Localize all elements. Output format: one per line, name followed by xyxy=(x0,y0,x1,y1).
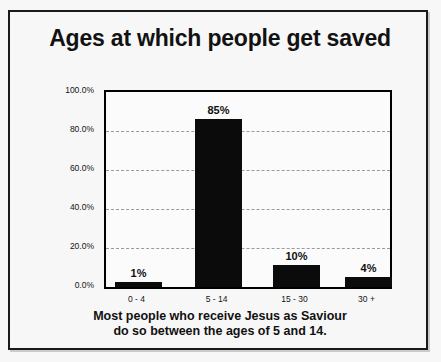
y-axis-tick-label-0: 0.0% xyxy=(34,280,94,290)
gridline-60 xyxy=(106,170,390,171)
chart-screenshot: Ages at which people get saved 100.0% 80… xyxy=(0,0,441,362)
y-axis-tick-label-20: 20.0% xyxy=(34,241,94,251)
y-axis-tick-label-60: 60.0% xyxy=(34,163,94,173)
x-axis-tick-label-5-14: 5 - 14 xyxy=(193,294,240,305)
chart-card-frame: Ages at which people get saved 100.0% 80… xyxy=(8,10,428,350)
plot-area: 1% 85% 10% 4% xyxy=(104,90,392,289)
x-axis-tick-label-15-30: 15 - 30 xyxy=(271,294,318,305)
caption-line-2: do so between the ages of 5 and 14. xyxy=(10,324,430,339)
y-axis-tick-label-100: 100.0% xyxy=(34,85,94,95)
chart-caption: Most people who receive Jesus as Saviour… xyxy=(10,309,430,339)
y-axis-tick-label-80: 80.0% xyxy=(34,124,94,134)
bar-30plus[interactable] xyxy=(345,277,392,287)
bar-label-5-14: 85% xyxy=(195,104,242,117)
chart-title: Ages at which people get saved xyxy=(10,24,430,52)
bar-5-14[interactable] xyxy=(195,119,242,287)
bar-label-15-30: 10% xyxy=(273,250,320,263)
x-axis-tick-label-30plus: 30 + xyxy=(343,294,390,305)
gridline-40 xyxy=(106,209,390,210)
y-axis-tick-label-40: 40.0% xyxy=(34,202,94,212)
gridline-20 xyxy=(106,248,390,249)
bar-label-0-4: 1% xyxy=(115,267,162,280)
caption-line-1: Most people who receive Jesus as Saviour xyxy=(10,309,430,324)
bar-label-30plus: 4% xyxy=(345,262,392,275)
bar-0-4[interactable] xyxy=(115,282,162,287)
x-axis-tick-label-0-4: 0 - 4 xyxy=(113,294,160,305)
gridline-80 xyxy=(106,131,390,132)
bar-15-30[interactable] xyxy=(273,265,320,287)
